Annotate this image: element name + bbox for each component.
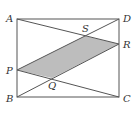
label-r: R bbox=[123, 40, 131, 50]
label-q: Q bbox=[48, 81, 56, 91]
label-b: B bbox=[6, 94, 13, 104]
label-p: P bbox=[6, 66, 13, 76]
geometry-figure: A D S R P Q B C bbox=[0, 0, 138, 121]
segment-ar bbox=[17, 19, 119, 44]
segment-pc bbox=[17, 70, 119, 97]
shaded-parallelogram-psrq bbox=[17, 36, 119, 78]
label-d: D bbox=[123, 14, 131, 24]
figure-drawing bbox=[0, 0, 138, 121]
label-a: A bbox=[6, 14, 13, 24]
label-c: C bbox=[123, 94, 131, 104]
label-s: S bbox=[82, 24, 89, 34]
